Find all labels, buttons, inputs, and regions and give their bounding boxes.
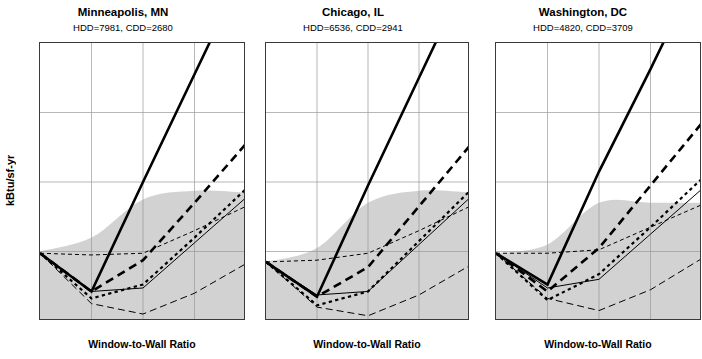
plot-canvas <box>40 43 245 320</box>
panel-washington: Washington, DC HDD=4820, CDD=3709 100120… <box>468 0 698 359</box>
shaded-range-band <box>496 200 701 320</box>
x-axis-label: Window-to-Wall Ratio <box>39 338 245 350</box>
plot-canvas <box>266 43 469 320</box>
panel-chicago: Chicago, IL HDD=6536, CDD=2941 100120140… <box>238 0 468 359</box>
plot-area: 10012014016018000.150.300.450.60 <box>265 42 469 320</box>
chart-figure: kBtu/sf-yr Minneapolis, MN HDD=7981, CDD… <box>0 0 702 359</box>
panel-subtitle: HDD=4820, CDD=3709 <box>468 22 698 33</box>
panel-title: Washington, DC <box>468 6 698 18</box>
panel-subtitle: HDD=7981, CDD=2680 <box>8 22 238 33</box>
shaded-range-band <box>40 190 245 320</box>
panel-minneapolis: Minneapolis, MN HDD=7981, CDD=2680 10012… <box>8 0 238 359</box>
x-axis-label: Window-to-Wall Ratio <box>495 338 701 350</box>
x-axis-label: Window-to-Wall Ratio <box>265 338 469 350</box>
panel-title: Chicago, IL <box>238 6 468 18</box>
panel-title: Minneapolis, MN <box>8 6 238 18</box>
plot-area: 10012014016018000.150.300.450.60 <box>495 42 701 320</box>
panel-subtitle: HDD=6536, CDD=2941 <box>238 22 468 33</box>
plot-canvas <box>496 43 701 320</box>
shaded-range-band <box>266 190 469 320</box>
plot-area: 10012014016018000.150.300.450.60 <box>39 42 245 320</box>
